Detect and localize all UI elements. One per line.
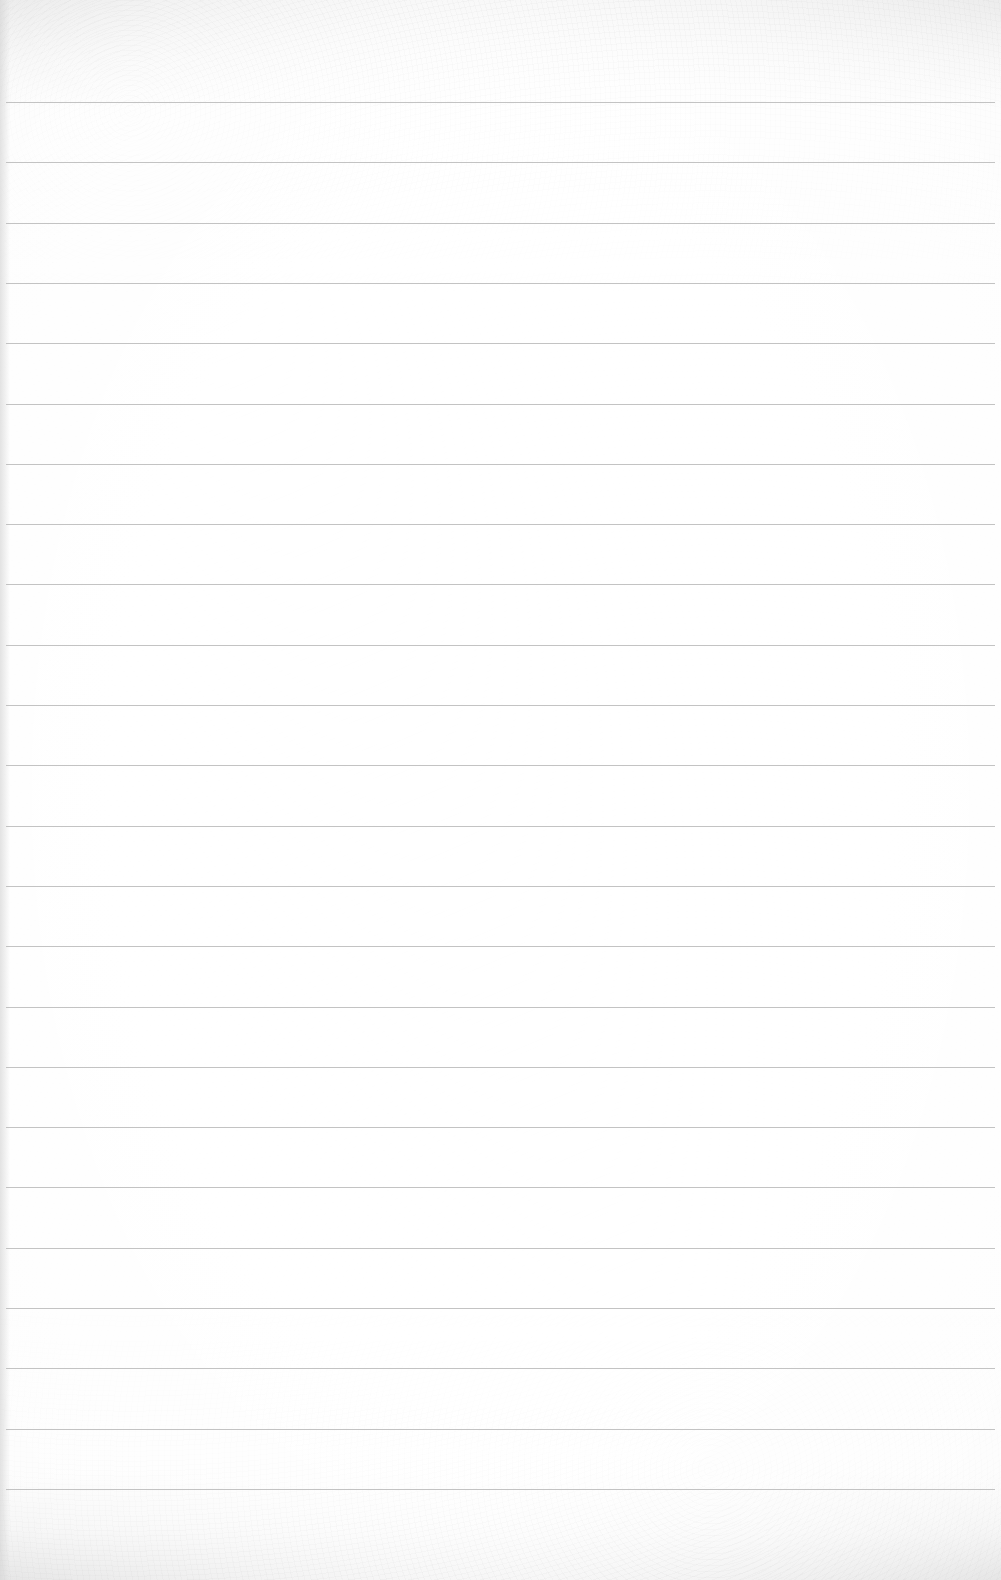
lined-paper-sheet [0,0,1001,1580]
ruled-line [6,524,995,525]
ruled-line [6,1067,995,1068]
ruled-line [6,1489,995,1490]
ruled-line [6,826,995,827]
ruled-line [6,1429,995,1430]
ruled-line [6,223,995,224]
paper-edge-shadow [0,0,10,1580]
ruled-line [6,464,995,465]
ruled-line [6,1007,995,1008]
ruled-line [6,162,995,163]
ruled-line [6,946,995,947]
ruled-line [6,1187,995,1188]
ruled-line [6,705,995,706]
ruled-line [6,1368,995,1369]
paper-texture [0,0,1001,1580]
ruled-line [6,343,995,344]
ruled-line [6,283,995,284]
ruled-line [6,584,995,585]
ruled-line [6,102,995,103]
ruled-line [6,1248,995,1249]
ruled-line [6,886,995,887]
ruled-line [6,645,995,646]
ruled-line [6,404,995,405]
ruled-line [6,1127,995,1128]
ruled-line [6,765,995,766]
ruled-line [6,1308,995,1309]
